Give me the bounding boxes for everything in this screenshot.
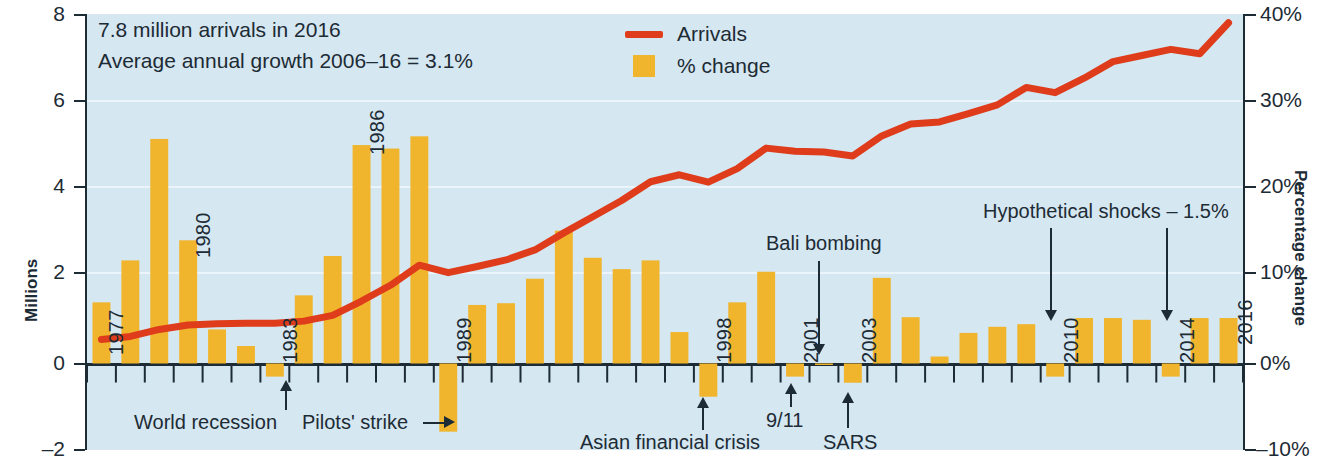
- gridline-2: [87, 272, 1243, 274]
- header-annotation: 7.8 million arrivals in 2016 Average ann…: [98, 14, 473, 76]
- bar-swatch-icon: [633, 55, 655, 77]
- left-tick-8: [74, 14, 85, 16]
- left-tick-label-4: 4: [10, 174, 65, 198]
- hypothetical-arrow-shaft-2014: [1166, 228, 1168, 312]
- pilots-strike-arrow-head: [444, 416, 455, 428]
- chart-legend: Arrivals % change: [625, 18, 770, 82]
- annotation-bali-bombing: Bali bombing: [766, 232, 882, 255]
- annotation-nine-eleven: 9/11: [766, 409, 803, 432]
- hypothetical-arrow-shaft-2010: [1050, 228, 1052, 312]
- right-tick-30: [1245, 100, 1256, 102]
- right-tick-m10: [1245, 449, 1256, 451]
- left-tick-label-6: 6: [10, 88, 65, 112]
- right-tick-label-m10: –10%: [1256, 437, 1310, 461]
- year-label-1998: 1998: [713, 317, 736, 363]
- right-tick-10: [1245, 272, 1256, 274]
- right-tick-label-40: 40%: [1260, 2, 1302, 26]
- pilots-strike-arrow-shaft: [423, 422, 446, 424]
- right-axis-title: Percentage change: [1290, 170, 1310, 326]
- left-tick-6: [74, 100, 85, 102]
- annotation-world-recession: World recession: [134, 411, 277, 434]
- left-tick-label-8: 8: [10, 2, 65, 26]
- year-label-1980: 1980: [192, 212, 215, 258]
- sars-arrow-shaft: [847, 400, 849, 428]
- annotation-sars: SARS: [823, 431, 877, 454]
- line-swatch-icon: [625, 31, 663, 38]
- right-tick-label-0: 0%: [1260, 351, 1290, 375]
- header-line-2: Average annual growth 2006–16 = 3.1%: [98, 45, 473, 76]
- hypothetical-arrow-head-2014: [1161, 310, 1173, 321]
- left-tick-4: [74, 186, 85, 188]
- legend-label-arrivals: Arrivals: [677, 18, 747, 50]
- left-axis-spine: [85, 14, 87, 450]
- annotation-asian-crisis: Asian financial crisis: [580, 431, 760, 454]
- annotation-pilots-strike: Pilots' strike: [302, 411, 408, 434]
- bali-arrow-head: [813, 344, 825, 355]
- gridline-4: [87, 186, 1243, 188]
- left-tick-label-0: 0: [10, 351, 65, 375]
- year-label-2016: 2016: [1234, 299, 1257, 345]
- asian-crisis-arrow-shaft: [702, 405, 704, 430]
- year-label-2003: 2003: [858, 317, 881, 363]
- annotation-hypothetical-shocks: Hypothetical shocks – 1.5%: [983, 200, 1229, 223]
- left-tick-0: [74, 363, 85, 365]
- nine-eleven-arrow-head: [785, 383, 797, 394]
- right-axis-spine: [1243, 14, 1245, 450]
- right-tick-20: [1245, 186, 1256, 188]
- year-label-1986: 1986: [366, 109, 389, 155]
- left-tick-2: [74, 272, 85, 274]
- asian-crisis-arrow-head: [697, 397, 709, 408]
- right-tick-40: [1245, 14, 1256, 16]
- right-tick-0: [1245, 363, 1256, 365]
- left-tick-m2: [74, 449, 85, 451]
- sars-arrow-head: [842, 392, 854, 403]
- header-line-1: 7.8 million arrivals in 2016: [98, 14, 473, 45]
- year-label-1989: 1989: [453, 317, 476, 363]
- world-recession-arrow-shaft: [285, 388, 287, 410]
- left-axis-title: Millions: [22, 259, 42, 322]
- year-label-1983: 1983: [279, 317, 302, 363]
- year-label-2014: 2014: [1176, 317, 1199, 363]
- legend-label-change: % change: [677, 50, 770, 82]
- legend-item-change[interactable]: % change: [625, 50, 770, 82]
- year-label-1977: 1977: [105, 309, 128, 355]
- world-recession-arrow-head: [280, 380, 292, 391]
- year-label-2010: 2010: [1060, 317, 1083, 363]
- zero-line: [87, 363, 1243, 366]
- chart-root: 8 6 4 2 0 –2 Millions 40% 30% 20% 10% 0%…: [0, 0, 1329, 461]
- right-tick-label-30: 30%: [1260, 88, 1302, 112]
- hypothetical-arrow-head-2010: [1045, 310, 1057, 321]
- legend-item-arrivals[interactable]: Arrivals: [625, 18, 770, 50]
- left-tick-label-m2: –2: [4, 437, 65, 461]
- bali-arrow-shaft: [818, 261, 820, 346]
- gridline-6: [87, 100, 1243, 102]
